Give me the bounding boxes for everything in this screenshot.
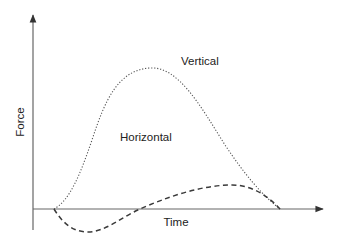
force-time-diagram: Force Time Vertical Horizontal — [0, 0, 351, 244]
vertical-curve-label: Vertical — [181, 55, 219, 67]
horizontal-curve-label: Horizontal — [120, 131, 172, 143]
x-axis-label: Time — [163, 216, 188, 228]
y-axis-label: Force — [14, 107, 26, 136]
